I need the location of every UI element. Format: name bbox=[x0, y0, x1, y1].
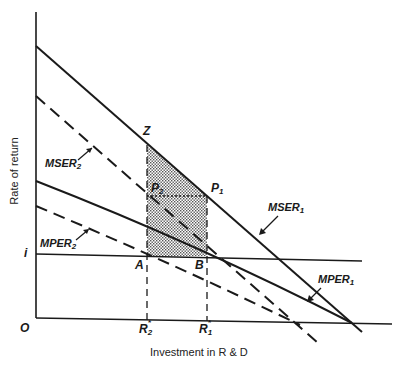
point-p1-label: P1 bbox=[211, 181, 223, 196]
mser1-curve bbox=[36, 46, 362, 332]
mser1-label-text: MSER bbox=[268, 201, 300, 213]
point-z-label: Z bbox=[143, 124, 150, 138]
p2-sub: 2 bbox=[159, 187, 163, 196]
point-b-label: B bbox=[195, 258, 204, 272]
mser2-label: MSER2 bbox=[45, 157, 81, 171]
origin-label: O bbox=[20, 321, 29, 335]
r2-sub: 2 bbox=[148, 328, 152, 337]
x-axis-label: Investment in R & D bbox=[150, 346, 248, 358]
diagram-canvas bbox=[0, 0, 401, 367]
mper1-label-sub: 1 bbox=[350, 278, 354, 287]
point-a-label: A bbox=[135, 258, 144, 272]
mser2-label-sub: 2 bbox=[77, 162, 81, 171]
r2-star-tick-label: R*2 bbox=[139, 322, 152, 337]
r1-sup: * bbox=[208, 318, 211, 327]
mper2-label-text: MPER bbox=[40, 237, 72, 249]
r2-sup: * bbox=[148, 318, 151, 327]
mser1-label: MSER1 bbox=[268, 201, 304, 215]
p1-text: P bbox=[211, 181, 219, 195]
r2-text: R bbox=[139, 322, 148, 336]
mper1-label: MPER1 bbox=[318, 273, 354, 287]
mper2-label: MPER2 bbox=[40, 237, 76, 251]
point-p2-label: P2 bbox=[151, 181, 163, 196]
mper1-label-text: MPER bbox=[318, 273, 350, 285]
mser1-label-sub: 1 bbox=[300, 206, 304, 215]
mser2-label-text: MSER bbox=[45, 157, 77, 169]
mper2-label-sub: 2 bbox=[72, 242, 76, 251]
economics-diagram: Rate of return Investment in R & D O i M… bbox=[0, 0, 401, 367]
r1-text: R bbox=[199, 322, 208, 336]
p1-sub: 1 bbox=[219, 187, 223, 196]
p2-text: P bbox=[151, 181, 159, 195]
interest-rate-label: i bbox=[24, 246, 27, 260]
r1-star-tick-label: R*1 bbox=[199, 322, 212, 337]
mser1-arrow bbox=[261, 216, 278, 233]
x-axis bbox=[36, 318, 392, 324]
y-axis-label: Rate of return bbox=[8, 131, 20, 211]
r1-sub: 1 bbox=[208, 328, 212, 337]
